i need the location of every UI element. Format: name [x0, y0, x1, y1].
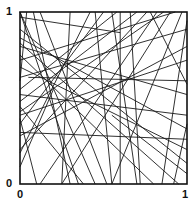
- random-line: [20, 38, 187, 129]
- random-line: [112, 12, 182, 184]
- random-line: [20, 46, 187, 135]
- random-line: [20, 12, 137, 101]
- random-line: [162, 21, 187, 184]
- y-axis-top-label: 1: [6, 6, 12, 17]
- x-axis-origin-label: 0: [17, 189, 23, 200]
- random-line: [130, 12, 140, 184]
- random-line: [62, 12, 70, 184]
- random-lines-figure: [0, 0, 195, 205]
- random-lines: [20, 12, 187, 184]
- random-line: [20, 12, 90, 153]
- random-line: [20, 29, 187, 163]
- x-axis-right-label: 1: [182, 189, 188, 200]
- y-axis-origin-label: 0: [6, 178, 12, 189]
- random-line: [20, 12, 147, 150]
- random-line: [150, 12, 187, 84]
